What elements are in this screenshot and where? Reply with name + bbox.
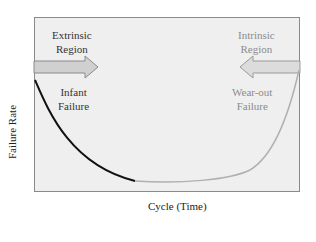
left-arrow-icon — [240, 56, 300, 78]
useful-life-curve — [135, 170, 250, 182]
extrinsic-region-label: Extrinsic Region — [52, 28, 92, 56]
wear-out-failure-label: Wear-out Failure — [232, 85, 272, 113]
intrinsic-region-label: Intrinsic Region — [238, 28, 275, 56]
wearout-line1: Wear-out — [232, 85, 272, 99]
intrinsic-line2: Region — [238, 42, 275, 56]
right-arrow-icon — [34, 56, 98, 78]
extrinsic-line2: Region — [52, 42, 92, 56]
infant-line2: Failure — [58, 99, 89, 113]
infant-failure-label: Infant Failure — [58, 85, 89, 113]
infant-line1: Infant — [58, 85, 89, 99]
intrinsic-line1: Intrinsic — [238, 28, 275, 42]
extrinsic-line1: Extrinsic — [52, 28, 92, 42]
wearout-line2: Failure — [232, 99, 272, 113]
y-axis-label: Failure Rate — [6, 105, 18, 159]
x-axis-label: Cycle (Time) — [148, 200, 207, 212]
